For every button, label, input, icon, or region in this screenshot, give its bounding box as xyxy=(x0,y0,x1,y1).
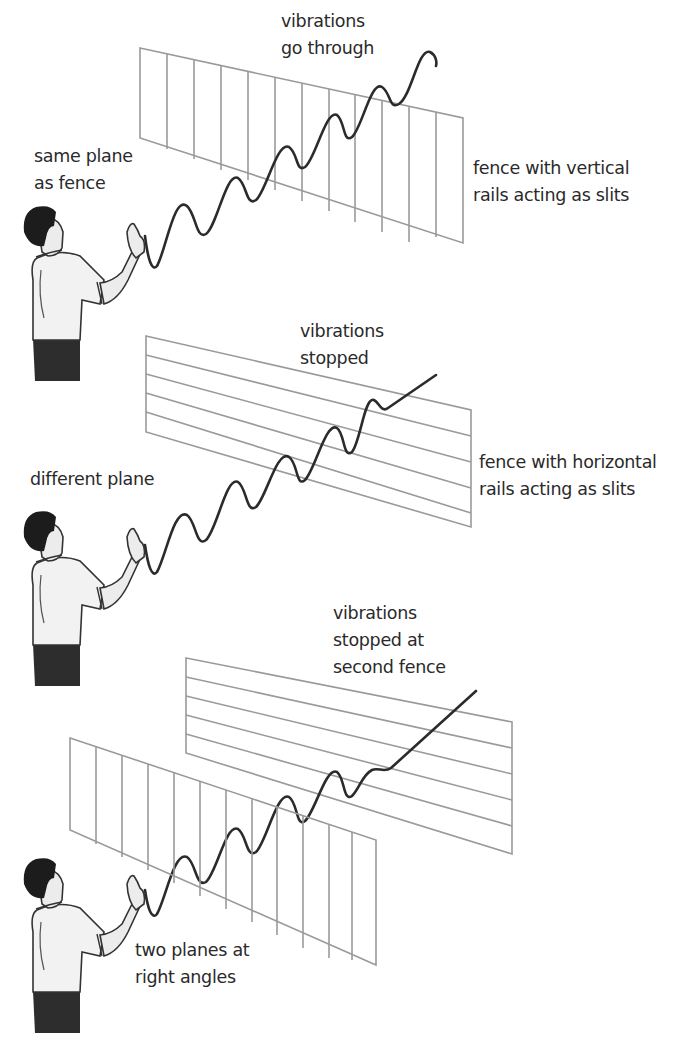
panel-3 xyxy=(24,658,512,1033)
person-figure xyxy=(24,858,145,1033)
label-vibrations-stopped: vibrations stopped xyxy=(300,318,384,372)
label-fence-vertical: fence with vertical rails acting as slit… xyxy=(473,155,629,209)
label-line: fence with vertical xyxy=(473,155,629,182)
label-line: rails acting as slits xyxy=(473,182,629,209)
label-line: second fence xyxy=(333,654,446,681)
fence-horizontal-rails-back xyxy=(186,658,512,854)
vibration-wave xyxy=(145,691,476,916)
label-line: rails acting as slits xyxy=(479,476,657,503)
label-line: same plane xyxy=(34,143,133,170)
label-line: stopped at xyxy=(333,627,446,654)
label-line: vibrations xyxy=(281,8,374,35)
label-two-planes: two planes at right angles xyxy=(135,937,249,991)
label-line: different plane xyxy=(30,466,154,493)
label-fence-horizontal: fence with horizontal rails acting as sl… xyxy=(479,449,657,503)
label-line: stopped xyxy=(300,345,384,372)
label-line: as fence xyxy=(34,170,133,197)
label-vibrations-stopped-second-fence: vibrations stopped at second fence xyxy=(333,600,446,681)
label-line: right angles xyxy=(135,964,249,991)
person-figure xyxy=(24,511,145,686)
label-line: two planes at xyxy=(135,937,249,964)
label-line: go through xyxy=(281,35,374,62)
label-line: fence with horizontal xyxy=(479,449,657,476)
vibration-wave xyxy=(145,52,436,268)
label-line: vibrations xyxy=(333,600,446,627)
person-figure xyxy=(24,206,145,381)
label-different-plane: different plane xyxy=(30,466,154,493)
label-vibrations-go-through: vibrations go through xyxy=(281,8,374,62)
label-line: vibrations xyxy=(300,318,384,345)
panel-1 xyxy=(24,48,463,381)
label-same-plane: same plane as fence xyxy=(34,143,133,197)
